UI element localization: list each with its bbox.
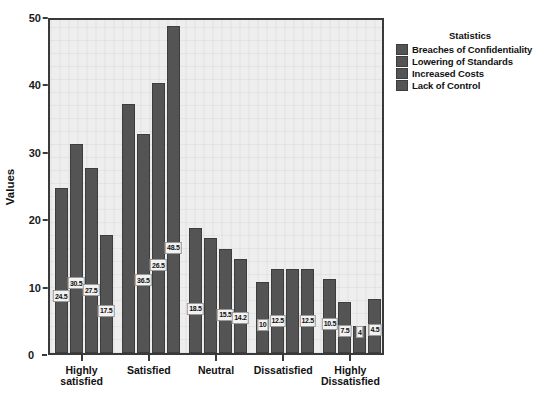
legend-item[interactable]: Increased Costs <box>396 68 556 79</box>
y-tick-30: 30 <box>29 147 48 159</box>
legend-items: Breaches of ConfidentialityLowering of S… <box>396 44 556 91</box>
bar-wrap: 36.5 <box>137 134 150 353</box>
bar[interactable]: 15.5 <box>219 249 232 353</box>
bar-value-label: 4.5 <box>368 324 381 336</box>
bar[interactable] <box>286 269 299 353</box>
y-tick-20: 20 <box>29 214 48 226</box>
y-tick-40: 40 <box>29 79 48 91</box>
x-tick-label: Dissatisfied <box>254 365 313 376</box>
y-tick-10: 10 <box>29 282 48 294</box>
bar-wrap: 48.5 <box>167 26 180 353</box>
x-tick-mark <box>349 355 351 361</box>
bar-value-label: 7.5 <box>338 325 351 337</box>
legend-item[interactable]: Lack of Control <box>396 80 556 91</box>
x-tick-label: Highlysatisfied <box>60 365 103 387</box>
bar-wrap <box>122 104 135 353</box>
legend-item[interactable]: Lowering of Standards <box>396 56 556 67</box>
bar-wrap: 26.5 <box>152 83 165 353</box>
legend-item-label: Increased Costs <box>412 68 484 79</box>
bar-wrap: 17.5 <box>100 235 113 353</box>
bar-wrap <box>204 238 217 353</box>
bar-wrap: 12.5 <box>301 269 314 353</box>
x-tick-label: Neutral <box>198 365 234 376</box>
bar[interactable]: 18.5 <box>189 228 202 353</box>
bar-group: 1012.512.5 <box>252 20 319 353</box>
x-tick-mark <box>282 355 284 361</box>
bar[interactable]: 14.2 <box>234 259 247 353</box>
legend-swatch-icon <box>396 56 408 67</box>
x-tick-mark <box>215 355 217 361</box>
bar[interactable] <box>122 104 135 353</box>
bar-wrap: 7.5 <box>338 302 351 353</box>
bar-group: 36.526.548.5 <box>117 20 184 353</box>
bar[interactable] <box>204 238 217 353</box>
x-tick-label: HighlyDissatisfied <box>321 365 380 387</box>
y-axis-title: Values <box>2 18 18 355</box>
bar-value-label: 14.2 <box>232 312 248 324</box>
legend-item-label: Lowering of Standards <box>412 56 513 67</box>
bar[interactable]: 10 <box>256 282 269 353</box>
bar-value-label: 4 <box>356 326 364 338</box>
bar-wrap: 10.5 <box>323 279 336 353</box>
bar[interactable]: 7.5 <box>338 302 351 353</box>
bars-layer: 24.530.527.517.536.526.548.518.515.514.2… <box>50 20 382 353</box>
legend: Statistics Breaches of ConfidentialityLo… <box>396 30 556 92</box>
legend-swatch-icon <box>396 80 408 91</box>
y-tick-zero: 0 <box>28 349 34 361</box>
bar[interactable]: 12.5 <box>301 269 314 353</box>
bar-value-label: 36.5 <box>135 274 151 286</box>
bar-wrap: 30.5 <box>70 144 83 353</box>
bar-group: 24.530.527.517.5 <box>50 20 117 353</box>
bar-value-label: 18.5 <box>187 303 203 315</box>
legend-item[interactable]: Breaches of Confidentiality <box>396 44 556 55</box>
bar-value-label: 30.5 <box>68 277 84 289</box>
bar[interactable]: 48.5 <box>167 26 180 353</box>
bar-wrap: 10 <box>256 282 269 353</box>
bar-value-label: 24.5 <box>53 290 69 302</box>
legend-swatch-icon <box>396 68 408 79</box>
y-tick-zero-mark <box>42 354 47 356</box>
bar-wrap: 14.2 <box>234 259 247 353</box>
bar[interactable]: 10.5 <box>323 279 336 353</box>
bar[interactable]: 27.5 <box>85 168 98 353</box>
x-tick-mark <box>81 355 83 361</box>
bar-value-label: 10.5 <box>322 318 338 330</box>
bar-wrap <box>286 269 299 353</box>
bar-value-label: 48.5 <box>165 242 181 254</box>
bar-wrap: 27.5 <box>85 168 98 353</box>
bar-value-label: 10 <box>257 319 268 331</box>
legend-title: Statistics <box>396 30 544 41</box>
bar[interactable]: 12.5 <box>271 269 284 353</box>
bar[interactable]: 17.5 <box>100 235 113 353</box>
bar-wrap: 15.5 <box>219 249 232 353</box>
legend-item-label: Lack of Control <box>412 80 480 91</box>
bar-wrap: 12.5 <box>271 269 284 353</box>
y-axis-title-text: Values <box>4 168 16 204</box>
bar-chart-figure: Values 24.530.527.517.536.526.548.518.51… <box>0 0 560 401</box>
legend-swatch-icon <box>396 44 408 55</box>
bar-value-label: 27.5 <box>83 284 99 296</box>
bar[interactable]: 26.5 <box>152 83 165 353</box>
bar[interactable]: 36.5 <box>137 134 150 353</box>
bar-wrap: 24.5 <box>55 188 68 353</box>
x-axis-labels: HighlysatisfiedSatisfiedNeutralDissatisf… <box>48 357 384 399</box>
bar-group: 10.57.544.5 <box>319 20 384 353</box>
bar-group: 18.515.514.2 <box>184 20 251 353</box>
bar-value-label: 15.5 <box>217 309 233 321</box>
bar-wrap: 4 <box>353 326 366 353</box>
legend-item-label: Breaches of Confidentiality <box>412 44 532 55</box>
y-tick-50: 50 <box>29 12 48 24</box>
bar[interactable]: 24.5 <box>55 188 68 353</box>
bar-wrap: 4.5 <box>368 299 381 353</box>
bar[interactable]: 4 <box>353 326 366 353</box>
bar-value-label: 12.5 <box>299 315 315 327</box>
x-tick-label: Satisfied <box>127 365 171 376</box>
x-tick-mark <box>148 355 150 361</box>
bar-value-label: 17.5 <box>98 305 114 317</box>
plot-area: 24.530.527.517.536.526.548.518.515.514.2… <box>48 18 384 355</box>
bar-wrap: 18.5 <box>189 228 202 353</box>
bar-value-label: 26.5 <box>150 259 166 271</box>
bar[interactable]: 30.5 <box>70 144 83 353</box>
bar-value-label: 12.5 <box>269 315 285 327</box>
bar[interactable]: 4.5 <box>368 299 381 353</box>
